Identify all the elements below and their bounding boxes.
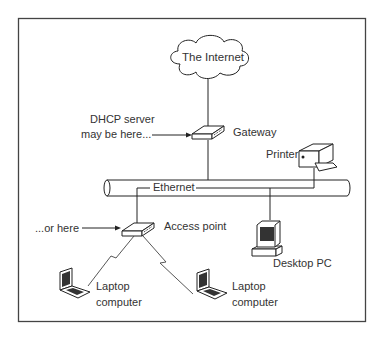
desktop-label: Desktop PC <box>273 257 332 270</box>
arrowhead-dhcp <box>186 133 192 138</box>
laptop1-label-line2: computer <box>96 296 142 309</box>
laptop2-label-line1: Laptop <box>232 280 266 293</box>
dhcp-annotation-line1: DHCP server <box>90 113 155 126</box>
printer-icon <box>299 144 337 171</box>
router-icon <box>122 223 154 236</box>
router-icon <box>192 126 224 139</box>
ethernet-label: Ethernet <box>152 181 196 194</box>
laptop2-label-line2: computer <box>232 296 278 309</box>
access-point-label: Access point <box>164 220 226 233</box>
internet-label: The Internet <box>182 51 244 64</box>
laptop-icon <box>197 269 227 299</box>
laptop-icon <box>60 268 90 298</box>
or-here-annotation: ...or here <box>35 222 79 235</box>
printer-label: Printer <box>266 148 298 161</box>
laptop1-label-line1: Laptop <box>96 280 130 293</box>
dhcp-annotation-line2: may be here... <box>81 128 151 141</box>
gateway-label: Gateway <box>233 126 276 139</box>
arrowhead-or-here <box>115 226 121 231</box>
desktop-pc-icon <box>252 221 282 256</box>
